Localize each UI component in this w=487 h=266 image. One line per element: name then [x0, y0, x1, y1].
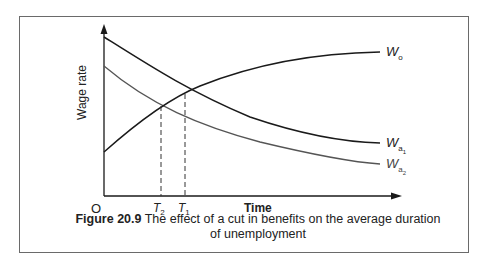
x-axis-arrow-icon	[391, 193, 402, 200]
curve-wa1	[104, 37, 380, 143]
caption-line1: The effect of a cut in benefits on the a…	[145, 212, 441, 226]
wo-label: Wo	[386, 44, 403, 62]
y-axis-arrow-icon	[101, 24, 108, 34]
wa2-label: Wa2	[386, 156, 406, 175]
figure-caption: Figure 20.9 The effect of a cut in benef…	[68, 212, 448, 242]
caption-line2: of unemployment	[210, 227, 306, 241]
wa1-label: Wa1	[386, 135, 406, 154]
figure-number: Figure 20.9	[75, 212, 141, 226]
curve-wa2	[104, 66, 380, 164]
y-axis-label: Wage rate	[75, 65, 89, 120]
